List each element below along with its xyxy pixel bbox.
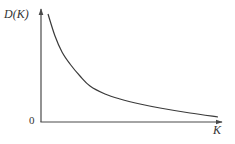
y-axis-label: D(K) xyxy=(4,8,29,20)
demand-curve xyxy=(48,14,218,117)
chart-canvas xyxy=(0,0,235,144)
x-axis-label: K xyxy=(213,124,221,136)
origin-label: 0 xyxy=(29,115,35,126)
